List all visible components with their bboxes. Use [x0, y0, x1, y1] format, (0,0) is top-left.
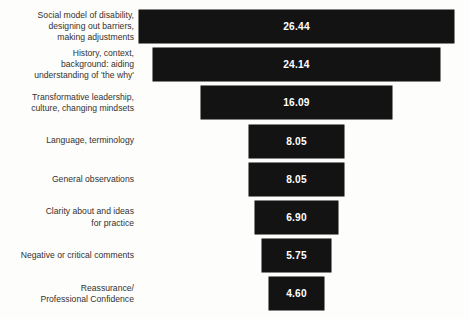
bar-area: 8.05	[134, 125, 469, 158]
category-label: History, context, background: aiding und…	[0, 48, 134, 82]
category-label: Negative or critical comments	[0, 250, 134, 261]
bar: 8.05	[249, 125, 345, 158]
bar-area: 4.60	[134, 277, 469, 310]
bar-value-label: 16.09	[283, 97, 310, 108]
bar: 16.09	[201, 86, 393, 119]
chart-row: History, context, background: aiding und…	[0, 48, 469, 81]
chart-row: Transformative leadership, culture, chan…	[0, 86, 469, 119]
funnel-bar-chart: Social model of disability, designing ou…	[0, 0, 469, 319]
bar: 8.05	[249, 163, 345, 196]
chart-row: Reassurance/ Professional Confidence4.60	[0, 277, 469, 310]
category-label: Clarity about and ideas for practice	[0, 206, 134, 228]
chart-row: Social model of disability, designing ou…	[0, 10, 469, 43]
category-label: Transformative leadership, culture, chan…	[0, 92, 134, 114]
bar: 24.14	[153, 48, 441, 81]
bar-area: 24.14	[134, 48, 469, 81]
bar-area: 26.44	[134, 10, 469, 43]
bar: 26.44	[139, 10, 454, 43]
category-label: Language, terminology	[0, 135, 134, 146]
bar-value-label: 4.60	[286, 288, 307, 299]
category-label: Reassurance/ Professional Confidence	[0, 283, 134, 305]
bar-area: 5.75	[134, 239, 469, 272]
chart-row: Clarity about and ideas for practice6.90	[0, 201, 469, 234]
bar-value-label: 26.44	[283, 21, 310, 32]
category-label: General observations	[0, 174, 134, 185]
bar-area: 6.90	[134, 201, 469, 234]
bar-value-label: 8.05	[286, 136, 307, 147]
bar-value-label: 6.90	[286, 212, 307, 223]
chart-row: Negative or critical comments5.75	[0, 239, 469, 272]
bar: 5.75	[262, 239, 331, 272]
bar: 4.60	[269, 277, 324, 310]
bar-value-label: 24.14	[283, 59, 310, 70]
chart-row: General observations8.05	[0, 163, 469, 196]
chart-row: Language, terminology8.05	[0, 125, 469, 158]
bar: 6.90	[255, 201, 337, 234]
category-label: Social model of disability, designing ou…	[0, 10, 134, 44]
bar-value-label: 5.75	[286, 250, 307, 261]
bar-area: 16.09	[134, 86, 469, 119]
bar-value-label: 8.05	[286, 174, 307, 185]
bar-area: 8.05	[134, 163, 469, 196]
